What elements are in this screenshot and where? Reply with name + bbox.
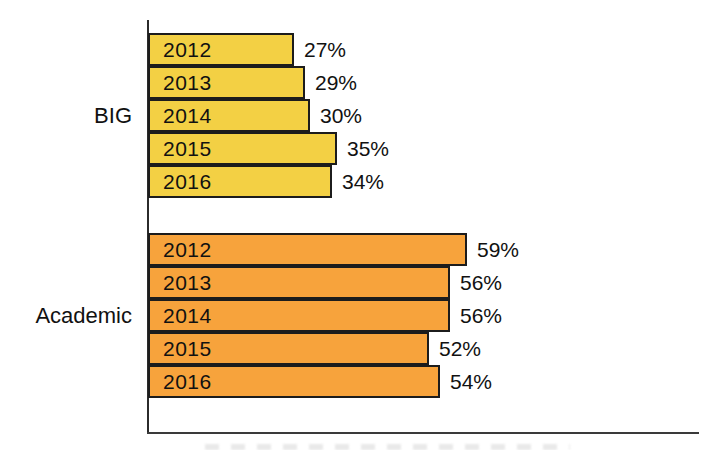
bar-year-label: 2016 — [150, 370, 212, 394]
bar-academic-2013: 2013 — [148, 266, 450, 299]
bar-year-label: 2013 — [150, 71, 212, 95]
bar-chart: BIG201227%201329%201430%201535%201634%Ac… — [0, 0, 710, 450]
bar-big-2014: 2014 — [148, 99, 310, 132]
bar-year-label: 2012 — [150, 238, 212, 262]
group-label-academic: Academic — [0, 300, 132, 332]
bar-value-label: 59% — [477, 233, 519, 266]
bar-big-2015: 2015 — [148, 132, 337, 165]
bar-value-label: 54% — [450, 365, 492, 398]
bar-academic-2015: 2015 — [148, 332, 429, 365]
x-axis-line — [147, 432, 699, 434]
bar-big-2013: 2013 — [148, 66, 305, 99]
bar-big-2016: 2016 — [148, 165, 332, 198]
bar-value-label: 29% — [315, 66, 357, 99]
bar-value-label: 52% — [439, 332, 481, 365]
bar-year-label: 2014 — [150, 304, 212, 328]
bar-year-label: 2016 — [150, 170, 212, 194]
cutoff-caption-artifact — [205, 444, 570, 450]
bar-academic-2012: 2012 — [148, 233, 467, 266]
bar-academic-2014: 2014 — [148, 299, 450, 332]
group-label-big: BIG — [0, 100, 132, 132]
bar-year-label: 2015 — [150, 137, 212, 161]
bar-academic-2016: 2016 — [148, 365, 440, 398]
bar-value-label: 34% — [342, 165, 384, 198]
bar-year-label: 2012 — [150, 38, 212, 62]
bar-value-label: 56% — [460, 266, 502, 299]
bar-value-label: 30% — [320, 99, 362, 132]
bar-year-label: 2015 — [150, 337, 212, 361]
bar-value-label: 56% — [460, 299, 502, 332]
bar-value-label: 35% — [347, 132, 389, 165]
bar-value-label: 27% — [304, 33, 346, 66]
bar-year-label: 2014 — [150, 104, 212, 128]
bar-big-2012: 2012 — [148, 33, 294, 66]
bar-year-label: 2013 — [150, 271, 212, 295]
